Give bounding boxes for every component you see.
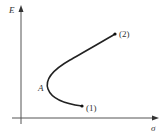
point-2-label: (2)	[119, 29, 130, 39]
y-axis-label: E	[8, 5, 15, 15]
point-2-marker	[113, 32, 116, 35]
diagram: E σ (1) A (2)	[0, 0, 168, 135]
point-1-label: (1)	[86, 103, 97, 113]
point-1-marker	[80, 104, 83, 107]
y-axis-arrow-icon	[19, 5, 24, 12]
point-a-label: A	[37, 83, 44, 93]
x-axis-arrow-icon	[152, 116, 159, 121]
y-axis	[19, 5, 24, 124]
process-curve	[47, 34, 115, 106]
x-axis	[12, 116, 159, 121]
x-axis-label: σ	[151, 123, 156, 133]
